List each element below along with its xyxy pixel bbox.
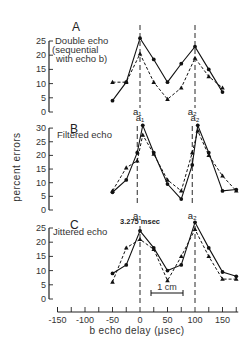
data-point-circle: [207, 246, 211, 250]
data-point-circle: [111, 272, 115, 276]
data-point-triangle: [124, 245, 129, 249]
data-point-circle: [221, 189, 225, 193]
data-point-triangle: [179, 85, 184, 89]
x-tick-label: 150: [215, 315, 230, 325]
data-point-circle: [179, 263, 183, 267]
series-line: [113, 131, 237, 191]
data-point-circle: [124, 263, 128, 267]
data-point-triangle: [138, 51, 143, 55]
data-point-circle: [166, 80, 170, 84]
data-point-circle: [111, 99, 115, 103]
data-point-circle: [193, 220, 197, 224]
panel-letter: A: [72, 20, 80, 34]
data-point-circle: [179, 62, 183, 66]
y-axis-title: percent errors: [11, 132, 22, 201]
y-tick-label: 5: [41, 93, 46, 103]
y-tick-label: 5: [41, 280, 46, 290]
scale-bar-label: 1 cm: [157, 282, 177, 292]
data-point-triangle: [206, 254, 211, 258]
x-tick-label: -100: [76, 315, 94, 325]
data-point-circle: [138, 36, 142, 40]
y-tick-label: 0: [41, 294, 46, 304]
data-point-circle: [179, 197, 183, 201]
y-tick-label: 20: [36, 150, 46, 160]
data-point-triangle: [193, 56, 198, 60]
y-tick-label: 10: [36, 178, 46, 188]
x-tick-label: -150: [48, 315, 66, 325]
annotation-msec: 3.275 msec: [120, 217, 160, 226]
y-tick-label: 25: [36, 36, 46, 46]
x-tick-label: 0: [137, 315, 142, 325]
y-tick-label: 25: [36, 137, 46, 147]
y-tick-label: 15: [36, 251, 46, 261]
data-point-circle: [193, 45, 197, 49]
data-point-circle: [166, 182, 170, 186]
data-point-circle: [196, 123, 200, 127]
data-point-triangle: [124, 165, 129, 169]
x-axis: -150-100-50050100150b echo delay (μsec): [48, 307, 238, 336]
panel-title: with echo b): [55, 53, 107, 64]
x-tick-label: 50: [162, 315, 172, 325]
panel-b: 051015202530BFiltered echoa₁a₁a₂a₂: [36, 106, 239, 221]
y-tick-label: 10: [36, 266, 46, 276]
y-tick-label: 15: [36, 164, 46, 174]
y-tick-label: 5: [41, 191, 46, 201]
data-point-triangle: [179, 254, 184, 258]
panel-c: 0510152025CJittered echo3.275 msec1 cm: [36, 217, 239, 305]
data-point-triangle: [179, 188, 184, 192]
x-tick-label: -50: [106, 315, 119, 325]
series-line: [113, 54, 223, 99]
chart-canvas: 0510152025ADouble echo(sequentialwith ec…: [0, 0, 250, 353]
data-point-circle: [221, 90, 225, 94]
x-tick-label: 100: [187, 315, 202, 325]
data-point-circle: [207, 68, 211, 72]
series-line: [113, 222, 237, 276]
y-tick-label: 25: [36, 223, 46, 233]
data-point-circle: [141, 123, 145, 127]
data-point-triangle: [138, 237, 143, 241]
y-tick-label: 20: [36, 237, 46, 247]
data-point-circle: [124, 178, 128, 182]
marker-label: a₁: [133, 106, 142, 117]
series-line: [113, 38, 223, 100]
y-tick-label: 30: [36, 123, 46, 133]
figure: 0510152025ADouble echo(sequentialwith ec…: [0, 0, 250, 353]
y-tick-label: 15: [36, 64, 46, 74]
y-tick-label: 0: [41, 205, 46, 215]
series-line: [113, 125, 237, 199]
data-point-circle: [221, 270, 225, 274]
panel-title: Jittered echo: [53, 226, 107, 237]
marker-label: a₂: [188, 210, 197, 221]
y-tick-label: 10: [36, 79, 46, 89]
marker-label: a₂: [188, 106, 197, 117]
series-line: [113, 229, 237, 282]
x-axis-title: b echo delay (μsec): [89, 325, 184, 336]
y-tick-label: 0: [41, 107, 46, 117]
data-point-circle: [190, 163, 194, 167]
data-point-triangle: [110, 280, 115, 284]
data-point-circle: [138, 229, 142, 233]
data-point-circle: [152, 58, 156, 62]
data-point-circle: [166, 269, 170, 273]
y-tick-label: 20: [36, 50, 46, 60]
data-point-triangle: [135, 158, 140, 162]
panel-title: Filtered echo: [57, 129, 112, 140]
data-point-triangle: [151, 80, 156, 84]
